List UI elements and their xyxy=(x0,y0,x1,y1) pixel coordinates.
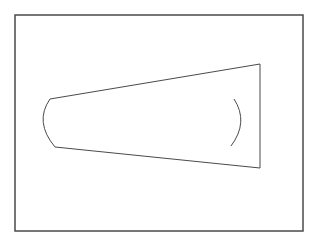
inner-arc xyxy=(231,99,241,146)
diagram-svg xyxy=(0,0,317,243)
tapered-shape-outline xyxy=(43,64,260,168)
diagram-canvas xyxy=(0,0,317,243)
